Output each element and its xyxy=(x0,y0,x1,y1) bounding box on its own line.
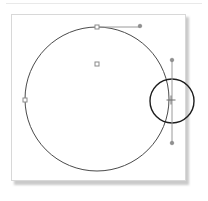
drawing-artboard[interactable] xyxy=(11,14,186,181)
guide-top-endpoint-dot[interactable] xyxy=(170,58,174,62)
guide-bottom-endpoint-dot[interactable] xyxy=(170,141,174,145)
handle-left-square[interactable] xyxy=(23,98,27,102)
handle-top-square[interactable] xyxy=(95,25,99,29)
top-divider xyxy=(6,3,202,4)
canvas-app xyxy=(0,0,208,201)
handle-center-square[interactable] xyxy=(95,62,99,66)
guide-right-endpoint-dot[interactable] xyxy=(138,24,142,28)
